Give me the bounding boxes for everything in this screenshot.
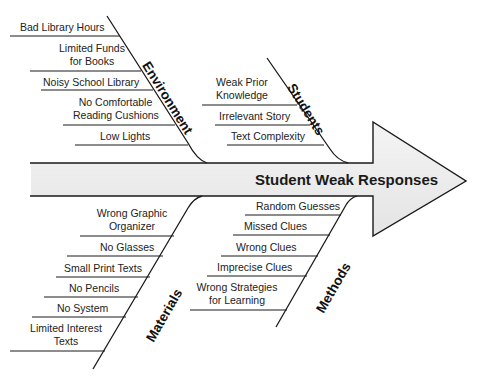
cause-text-complexity: Text Complexity bbox=[231, 130, 305, 143]
cause-missed-clues: Missed Clues bbox=[244, 220, 307, 233]
cause-random-guesses: Random Guesses bbox=[256, 200, 340, 213]
cause-irrelevant-story: Irrelevant Story bbox=[219, 110, 290, 123]
cause-wrong-strategies: Wrong Strategies for Learning bbox=[194, 281, 280, 307]
cause-no-comfortable-cushions: No Comfortable Reading Cushions bbox=[73, 96, 158, 122]
cause-limited-interest-texts: Limited Interest Texts bbox=[28, 322, 104, 348]
cause-noisy-school-library: Noisy School Library bbox=[43, 76, 139, 89]
cause-bad-library-hours: Bad Library Hours bbox=[20, 21, 105, 34]
cause-wrong-graphic-organizer: Wrong Graphic Organizer bbox=[92, 207, 172, 233]
cause-no-pencils: No Pencils bbox=[69, 282, 119, 295]
cause-limited-funds: Limited Funds for Books bbox=[52, 42, 132, 68]
cause-small-print-texts: Small Print Texts bbox=[64, 262, 142, 275]
cause-weak-prior-knowledge: Weak Prior Knowledge bbox=[216, 76, 268, 102]
cause-no-glasses: No Glasses bbox=[100, 241, 154, 254]
cause-no-system: No System bbox=[57, 302, 108, 315]
fishbone-diagram: Student Weak Responses Environment Stude… bbox=[0, 0, 481, 383]
cause-low-lights: Low Lights bbox=[100, 130, 150, 143]
cause-imprecise-clues: Imprecise Clues bbox=[217, 261, 292, 274]
cause-wrong-clues: Wrong Clues bbox=[236, 241, 297, 254]
effect-label: Student Weak Responses bbox=[255, 171, 438, 188]
